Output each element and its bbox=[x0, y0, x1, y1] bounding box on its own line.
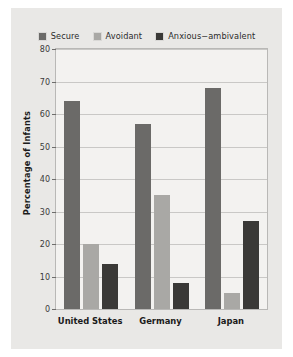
y-axis-title: Percentage of Infants bbox=[22, 103, 32, 223]
legend-item-avoidant[interactable]: Avoidant bbox=[93, 31, 143, 41]
bar[interactable] bbox=[173, 283, 189, 309]
legend-item-secure[interactable]: Secure bbox=[38, 31, 80, 41]
y-axis-tick-label: 10 bbox=[40, 272, 50, 281]
bar-groups bbox=[56, 49, 267, 309]
legend-item-anxious-ambivalent[interactable]: Anxious−ambivalent bbox=[155, 31, 255, 41]
legend-swatch-anxious-ambivalent bbox=[155, 32, 164, 41]
legend-label-anxious-ambivalent: Anxious−ambivalent bbox=[168, 31, 255, 41]
bar[interactable] bbox=[205, 88, 221, 309]
bar[interactable] bbox=[135, 124, 151, 309]
y-axis-tick-label: 70 bbox=[40, 77, 50, 86]
y-axis-tick-label: 30 bbox=[40, 207, 50, 216]
y-axis-tick-label: 20 bbox=[40, 240, 50, 249]
bar[interactable] bbox=[64, 101, 80, 309]
y-axis-tick-label: 0 bbox=[45, 305, 50, 314]
bar[interactable] bbox=[154, 195, 170, 309]
bar[interactable] bbox=[102, 264, 118, 310]
x-axis-category-label: United States bbox=[58, 316, 123, 326]
bar[interactable] bbox=[224, 293, 240, 309]
x-axis-category-label: Germany bbox=[139, 316, 181, 326]
chart-legend: Secure Avoidant Anxious−ambivalent bbox=[11, 28, 282, 44]
y-axis-tick-label: 50 bbox=[40, 142, 50, 151]
y-axis-tick-label: 60 bbox=[40, 110, 50, 119]
plot-area: 01020304050607080 bbox=[55, 48, 268, 310]
y-axis-tick-label: 80 bbox=[40, 45, 50, 54]
legend-swatch-avoidant bbox=[93, 32, 102, 41]
y-axis-tick bbox=[52, 309, 56, 310]
bar[interactable] bbox=[243, 221, 259, 309]
bar[interactable] bbox=[83, 244, 99, 309]
chart-figure: Secure Avoidant Anxious−ambivalent Perce… bbox=[11, 8, 282, 349]
legend-swatch-secure bbox=[38, 32, 47, 41]
x-axis-category-label: Japan bbox=[218, 316, 244, 326]
legend-label-secure: Secure bbox=[51, 31, 80, 41]
legend-label-avoidant: Avoidant bbox=[106, 31, 143, 41]
y-axis-tick-label: 40 bbox=[40, 175, 50, 184]
